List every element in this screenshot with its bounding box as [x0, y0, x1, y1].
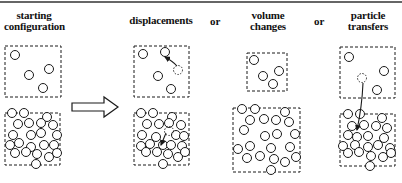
particle-circle: [177, 121, 186, 130]
particle-circle: [344, 110, 353, 119]
particle-circle: [240, 126, 249, 135]
particle-circle: [355, 148, 364, 157]
particle-circle: [165, 119, 174, 128]
particle-circle: [22, 148, 31, 157]
particle-circle: [164, 150, 173, 159]
move-arrow-icon: [165, 57, 177, 66]
particle-circle: [275, 67, 284, 76]
header-particle-transfers: particle transfers: [337, 10, 399, 32]
diagram-stage: starting configuration displacements or …: [0, 0, 402, 183]
particle-circle: [281, 108, 290, 117]
particle-circle: [259, 72, 268, 81]
particle-circle: [25, 119, 34, 128]
panels-layer: [5, 46, 396, 175]
header-starting-line2: configuration: [4, 21, 64, 32]
particle-circle: [269, 80, 278, 89]
particle-circle: [270, 155, 279, 164]
particle-circle: [25, 71, 34, 80]
particle-circle: [378, 114, 387, 123]
particle-circle: [20, 109, 29, 118]
particle-circle: [364, 143, 373, 152]
particle-circle: [33, 150, 42, 159]
particle-circle: [137, 109, 146, 118]
header-displacements: displacements: [121, 15, 201, 26]
ghost-particle-circle: [174, 66, 183, 75]
ghost-particle-circle: [358, 74, 367, 83]
particle-circle: [37, 119, 46, 128]
particle-circle: [11, 51, 20, 60]
particle-circle: [344, 149, 353, 158]
particle-circle: [40, 141, 49, 150]
particle-circle: [181, 148, 190, 157]
particle-circle: [53, 149, 62, 158]
particle-circle: [273, 130, 282, 139]
particle-circle: [159, 160, 168, 169]
particle-circle: [291, 130, 300, 139]
particle-circle: [155, 120, 164, 129]
particle-circle: [345, 53, 354, 62]
panel-starting: [5, 46, 62, 169]
header-volume-line2: changes: [238, 21, 298, 32]
particle-circle: [360, 121, 369, 130]
transition-arrow-icon: [72, 97, 118, 117]
particle-circle: [180, 132, 189, 141]
panel-displacements: [134, 46, 190, 169]
particle-circle: [27, 131, 36, 140]
particle-circle: [372, 122, 381, 131]
particle-circle: [261, 132, 270, 141]
particle-circle: [149, 109, 158, 118]
header-or-1: or: [210, 15, 220, 27]
particle-circle: [154, 72, 163, 81]
particle-circle: [153, 148, 162, 157]
particle-circle: [11, 149, 20, 158]
particle-circle: [251, 105, 260, 114]
header-volume-changes: volume changes: [238, 10, 298, 32]
particle-circle: [246, 116, 255, 125]
particle-circle: [383, 124, 392, 133]
particle-circle: [238, 105, 247, 114]
particle-circle: [167, 85, 176, 94]
particle-circle: [53, 131, 62, 140]
particle-circle: [139, 50, 148, 59]
particle-circle: [37, 129, 46, 138]
particle-circle: [143, 120, 152, 129]
particle-circle: [49, 121, 58, 130]
particle-circle: [364, 132, 373, 141]
particle-circle: [142, 148, 151, 157]
particle-circle: [15, 139, 24, 148]
particle-circle: [161, 48, 170, 57]
panel-particle: [339, 47, 396, 171]
particle-circle: [272, 116, 281, 125]
particle-circle: [9, 131, 18, 140]
particle-circle: [246, 142, 255, 151]
particle-circle: [281, 158, 290, 167]
header-or-2: or: [314, 15, 324, 27]
particle-circle: [348, 122, 357, 131]
particle-circle: [344, 131, 353, 140]
particle-circle: [267, 144, 276, 153]
particle-circle: [380, 67, 389, 76]
particle-circle: [45, 65, 54, 74]
particle-circle: [167, 141, 176, 150]
particle-circle: [234, 145, 243, 154]
particle-circle: [250, 56, 259, 65]
particle-circle: [292, 153, 301, 162]
particle-circle: [367, 152, 376, 161]
particle-circle: [267, 166, 276, 175]
header-particle-line2: transfers: [337, 21, 399, 32]
header-starting-configuration: starting configuration: [4, 10, 64, 32]
particle-circle: [285, 118, 294, 127]
particle-circle: [14, 120, 23, 129]
particle-circle: [256, 152, 265, 161]
particle-circle: [138, 131, 147, 140]
particle-circle: [366, 162, 375, 171]
particle-circle: [243, 154, 252, 163]
particle-circle: [373, 86, 382, 95]
particle-circle: [260, 115, 269, 124]
particle-circle: [374, 141, 383, 150]
particle-circle: [387, 149, 396, 158]
particle-circle: [39, 84, 48, 93]
particle-circle: [286, 143, 295, 152]
panel-volume: [233, 53, 301, 175]
particle-circle: [6, 141, 15, 150]
